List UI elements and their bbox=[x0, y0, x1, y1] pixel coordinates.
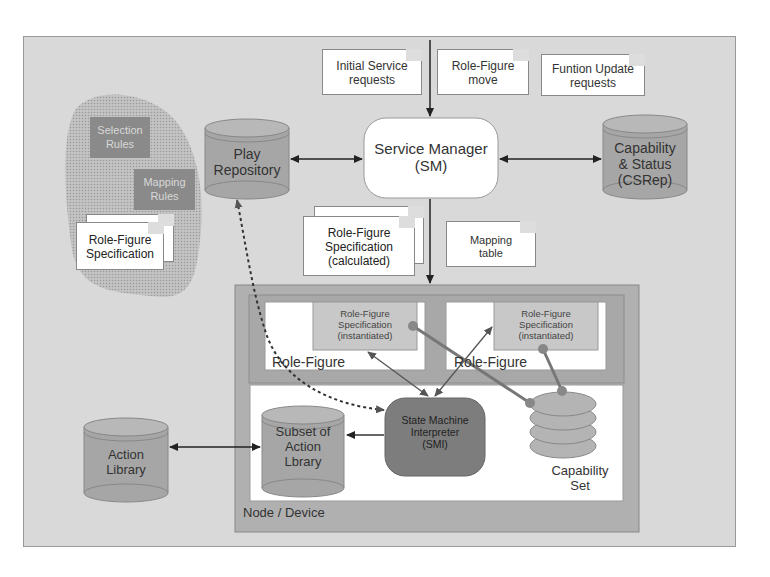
mt-line1: Mapping bbox=[447, 234, 535, 247]
map-line1: Mapping bbox=[143, 176, 185, 189]
service-manager-label: Service Manager (SM) bbox=[364, 140, 498, 175]
smi-line3: (SMI) bbox=[385, 438, 485, 450]
cs-line1: Capability bbox=[603, 140, 687, 156]
mapping-table-doc: Mapping table bbox=[446, 221, 536, 267]
doc-line: move bbox=[438, 74, 528, 88]
calc-line1: Role-Figure bbox=[304, 227, 414, 241]
capability-status-label: Capability & Status (CSRep) bbox=[603, 140, 687, 188]
role-figure-spec-doc: Role-Figure Specification bbox=[76, 222, 164, 270]
diagram-canvas: Initial Service requests Role-Figure mov… bbox=[0, 0, 770, 577]
calculated-spec-doc: Role-Figure Specification (calculated) bbox=[303, 216, 415, 276]
doc-line: Initial Service bbox=[323, 60, 421, 74]
doc-line: Funtion Update bbox=[542, 63, 644, 77]
cs-line2: & Status bbox=[603, 156, 687, 172]
action-library-label: Action Library bbox=[84, 448, 168, 478]
sal-line3: Lbrary bbox=[262, 455, 344, 470]
pr-line1: Play bbox=[205, 146, 289, 162]
sm-line1: Service Manager bbox=[364, 140, 498, 157]
rfs-line1: Role-Figure bbox=[77, 234, 163, 248]
role-figure-label-2: Role-Figure bbox=[454, 354, 527, 370]
rfs-line2: Specification bbox=[77, 248, 163, 262]
al-line2: Library bbox=[84, 463, 168, 478]
role-figure-label-1: Role-Figure bbox=[272, 354, 345, 370]
capability-set-label: Capability Set bbox=[535, 464, 625, 494]
doc-function-update-requests: Funtion Update requests bbox=[541, 54, 645, 96]
capability-set-stack bbox=[530, 392, 596, 458]
doc-line: requests bbox=[323, 74, 421, 88]
spec-instantiated-label-2: Role-Figure Specification (instantiated) bbox=[494, 309, 598, 342]
rf2-spec-line3: (instantiated) bbox=[494, 331, 598, 342]
sel-line1: Selection bbox=[97, 124, 142, 137]
map-line2: Rules bbox=[143, 190, 185, 203]
selection-rules-box: Selection Rules bbox=[90, 117, 150, 158]
doc-line: requests bbox=[542, 77, 644, 91]
doc-role-figure-move: Role-Figure move bbox=[437, 49, 529, 95]
calc-line3: (calculated) bbox=[304, 255, 414, 269]
smi-line2: Interpreter bbox=[385, 426, 485, 438]
sal-line1: Subset of bbox=[262, 425, 344, 440]
mt-line2: table bbox=[447, 247, 535, 260]
cs-line3: (CSRep) bbox=[603, 172, 687, 188]
sel-line2: Rules bbox=[97, 138, 142, 151]
al-line1: Action bbox=[84, 448, 168, 463]
calc-line2: Specification bbox=[304, 241, 414, 255]
pr-line2: Repository bbox=[205, 162, 289, 178]
smi-label: State Machine Interpreter (SMI) bbox=[385, 414, 485, 450]
capset-line2: Set bbox=[535, 479, 625, 494]
doc-line: Role-Figure bbox=[438, 60, 528, 74]
node-device-label: Node / Device bbox=[243, 506, 325, 521]
subset-action-library-label: Subset of Action Lbrary bbox=[262, 425, 344, 470]
capset-line1: Capability bbox=[535, 464, 625, 479]
doc-initial-service-requests: Initial Service requests bbox=[322, 49, 422, 95]
mapping-rules-box: Mapping Rules bbox=[134, 169, 195, 210]
play-repository-label: Play Repository bbox=[205, 146, 289, 178]
rf1-spec-line3: (instantiated) bbox=[313, 331, 417, 342]
sal-line2: Action bbox=[262, 440, 344, 455]
spec-instantiated-label-1: Role-Figure Specification (instantiated) bbox=[313, 309, 417, 342]
smi-line1: State Machine bbox=[385, 414, 485, 426]
sm-line2: (SM) bbox=[364, 157, 498, 174]
